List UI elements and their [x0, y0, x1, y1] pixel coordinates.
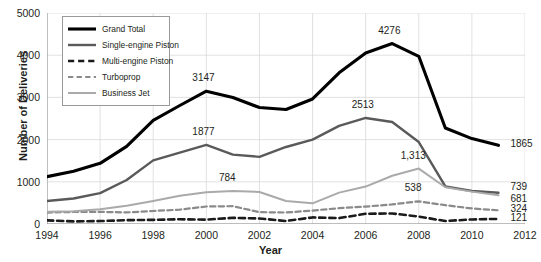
legend-swatch-icon	[67, 55, 97, 67]
y-tick-label: 4000	[0, 50, 40, 60]
x-tick-label: 2004	[290, 229, 336, 241]
x-axis-title: Year	[0, 244, 541, 256]
y-tick-label: 5000	[0, 8, 40, 18]
y-tick-label: 2000	[0, 135, 40, 145]
legend-label: Grand Total	[102, 24, 145, 34]
chart-figure: Number of Deliveries Year 01000200030004…	[0, 0, 541, 262]
data-point-label: 3147	[192, 73, 214, 83]
data-point-label: 1865	[510, 139, 532, 149]
x-tick-label: 2006	[343, 229, 389, 241]
legend-item-0[interactable]: Grand Total	[67, 21, 164, 37]
x-tick-label: 2002	[236, 229, 282, 241]
data-point-label: 1,313	[401, 151, 426, 161]
legend-item-4[interactable]: Business Jet	[67, 85, 164, 101]
x-tick-label: 1998	[130, 229, 176, 241]
legend-label: Multi-engine Piston	[102, 56, 173, 66]
series-line-2	[47, 213, 498, 221]
x-tick-label: 2012	[502, 229, 541, 241]
data-point-label: 4276	[378, 26, 400, 36]
legend-label: Business Jet	[102, 88, 149, 98]
series-line-1	[47, 118, 498, 201]
legend-item-1[interactable]: Single-engine Piston	[67, 37, 164, 53]
x-tick-label: 2010	[449, 229, 495, 241]
x-tick-label: 1994	[24, 229, 70, 241]
data-point-label: 538	[405, 183, 422, 193]
data-point-label: 1877	[192, 127, 214, 137]
y-tick-label: 3000	[0, 92, 40, 102]
legend-item-2[interactable]: Multi-engine Piston	[67, 53, 164, 69]
data-point-label: 121	[510, 213, 527, 223]
legend-item-3[interactable]: Turboprop	[67, 69, 164, 85]
series-line-4	[47, 169, 498, 212]
y-tick-label: 0	[0, 219, 40, 229]
legend-label: Turboprop	[102, 72, 140, 82]
legend-swatch-icon	[67, 23, 97, 35]
data-point-label: 2513	[352, 100, 374, 110]
legend-swatch-icon	[67, 71, 97, 83]
x-tick-label: 2008	[396, 229, 442, 241]
legend-swatch-icon	[67, 87, 97, 99]
legend-label: Single-engine Piston	[102, 40, 179, 50]
data-point-label: 739	[510, 182, 527, 192]
x-tick-label: 1996	[77, 229, 123, 241]
data-point-label: 784	[219, 173, 236, 183]
legend-swatch-icon	[67, 39, 97, 51]
chart-legend: Grand TotalSingle-engine PistonMulti-eng…	[62, 16, 170, 106]
y-tick-label: 1000	[0, 177, 40, 187]
x-tick-label: 2000	[183, 229, 229, 241]
